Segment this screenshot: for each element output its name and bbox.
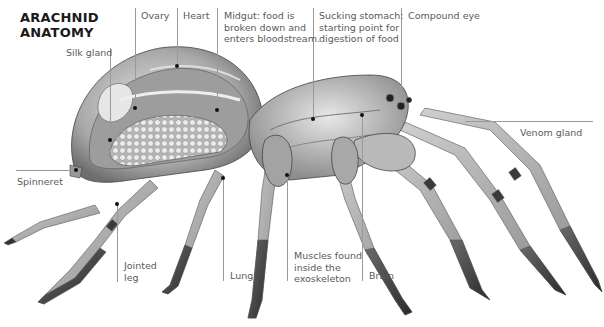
label-lung: Lung xyxy=(230,270,253,282)
leader-heart xyxy=(177,8,178,66)
label-jointed-leg-line-1: Jointed xyxy=(124,260,157,272)
marker-spinneret xyxy=(74,168,78,172)
label-jointed-leg-line-2: leg xyxy=(124,272,157,284)
marker-brain xyxy=(360,113,364,117)
leader-ovary xyxy=(135,8,136,108)
label-jointed-leg: Jointed leg xyxy=(124,260,157,283)
marker-muscles xyxy=(285,173,289,177)
label-venom-gland: Venom gland xyxy=(520,127,582,139)
leader-silk-gland xyxy=(110,48,111,140)
marker-ovary xyxy=(133,106,137,110)
label-muscles: Muscles found inside the exoskeleton xyxy=(294,250,362,285)
label-midgut: Midgut: food is broken down and enters b… xyxy=(224,10,320,45)
marker-sucking-stomach xyxy=(311,117,315,121)
leader-venom-gland xyxy=(465,121,593,122)
title-line-1: ARACHNID xyxy=(20,10,99,25)
label-sucking-stomach-line-3: digestion of food xyxy=(319,33,404,45)
label-sucking-stomach-line-1: Sucking stomach: xyxy=(319,10,404,22)
marker-lung xyxy=(221,176,225,180)
label-silk-gland: Silk gland xyxy=(66,47,112,59)
marker-heart xyxy=(175,64,179,68)
label-muscles-line-2: inside the xyxy=(294,262,362,274)
label-heart: Heart xyxy=(183,10,209,22)
leader-midgut xyxy=(217,8,218,110)
label-midgut-line-1: Midgut: food is xyxy=(224,10,320,22)
leader-spinneret xyxy=(16,170,76,171)
label-muscles-line-3: exoskeleton xyxy=(294,273,362,285)
marker-silk-gland xyxy=(108,138,112,142)
legs-rear xyxy=(4,170,224,304)
abdomen xyxy=(72,47,263,183)
cephalothorax xyxy=(249,75,415,186)
leader-brain xyxy=(362,115,363,281)
label-sucking-stomach-line-2: starting point for xyxy=(319,22,404,34)
marker-jointed-leg xyxy=(115,202,119,206)
label-midgut-line-3: enters bloodstream. xyxy=(224,33,320,45)
leader-lung xyxy=(223,178,224,281)
label-ovary: Ovary xyxy=(141,10,169,22)
label-brain: Brain xyxy=(369,270,394,282)
label-sucking-stomach: Sucking stomach: starting point for dige… xyxy=(319,10,404,45)
marker-midgut xyxy=(215,108,219,112)
label-compound-eye: Compound eye xyxy=(408,10,480,22)
label-muscles-line-1: Muscles found xyxy=(294,250,362,262)
leader-jointed-leg xyxy=(117,204,118,282)
label-spinneret: Spinneret xyxy=(17,176,63,188)
label-midgut-line-2: broken down and xyxy=(224,22,320,34)
diagram-title: ARACHNID ANATOMY xyxy=(20,10,99,40)
title-line-2: ANATOMY xyxy=(20,25,99,40)
leader-muscles xyxy=(287,175,288,281)
